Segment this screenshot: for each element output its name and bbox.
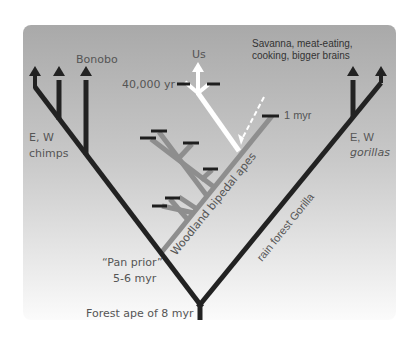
label-bonobo: Bonobo xyxy=(76,53,118,66)
label-pan-prior-line2: 5-6 myr xyxy=(113,272,157,285)
label-one-myr: 1 myr xyxy=(284,109,312,121)
label-pan-prior-line1: “Pan prior” xyxy=(102,256,163,269)
label-savanna-line1: Savanna, meat-eating, xyxy=(252,38,353,49)
label-root: Forest ape of 8 myr xyxy=(86,307,194,320)
label-chimps-line1: E, W xyxy=(29,131,54,144)
label-gorillas-line1: E, W xyxy=(350,131,374,143)
label-gorillas-line2: gorillas xyxy=(350,146,390,159)
label-chimps-line2: chimps xyxy=(29,147,69,160)
evolution-tree-diagram: Bonobo Us 40,000 yr Savanna, meat-eating… xyxy=(0,0,418,346)
label-savanna-line2: cooking, bigger brains xyxy=(252,50,350,61)
label-us: Us xyxy=(192,48,206,61)
label-us-date: 40,000 yr xyxy=(122,78,175,91)
